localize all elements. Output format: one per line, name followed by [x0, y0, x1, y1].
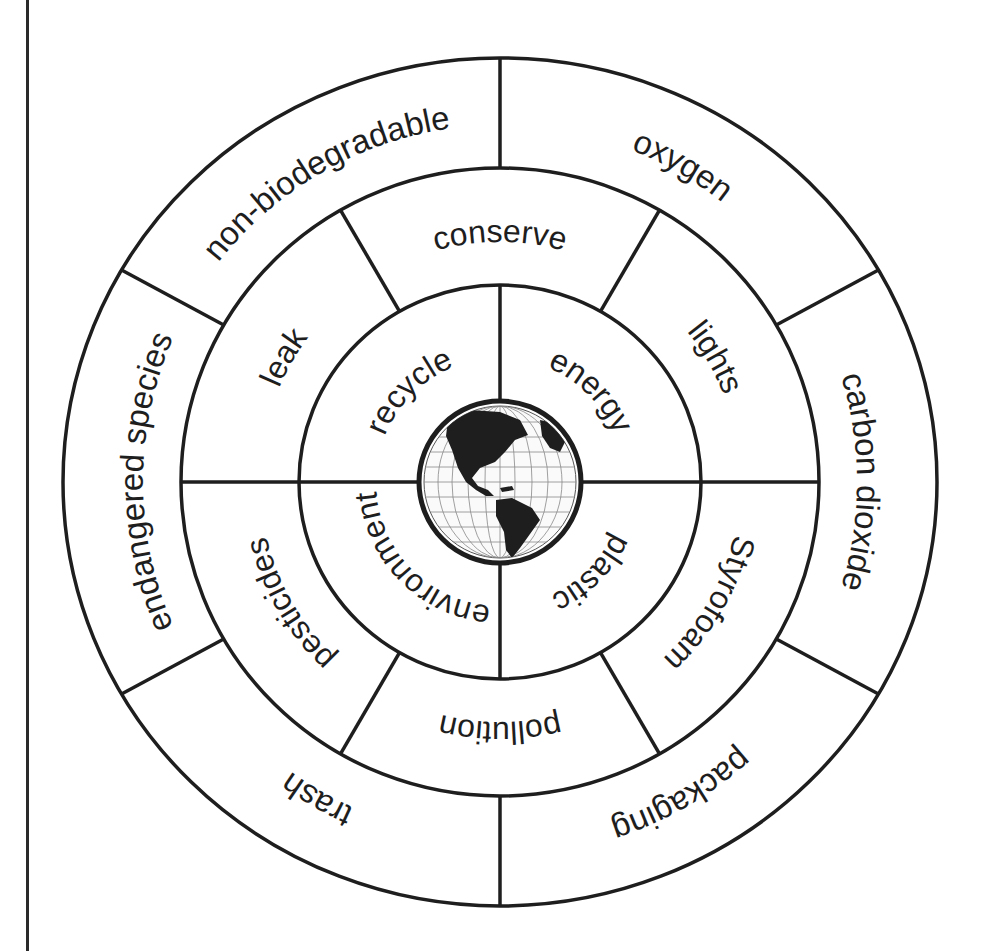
outer-ring-divider: [776, 639, 878, 694]
label-non-biodegradable: non-biodegradable: [195, 99, 452, 267]
label-conserve: conserve: [429, 213, 571, 258]
label-trash: trash: [274, 766, 357, 836]
outer-ring-divider: [122, 270, 224, 325]
middle-segment-label: leak: [253, 320, 315, 391]
middle-ring-divider: [341, 653, 400, 754]
middle-segment-label: pollution: [435, 708, 565, 751]
outer-segment-label: packaging: [608, 742, 759, 850]
outer-segment-label: endangered species: [113, 326, 180, 638]
label-leak: leak: [253, 320, 315, 391]
label-pollution: pollution: [435, 708, 565, 751]
middle-segment-label: lights: [681, 313, 750, 398]
middle-ring-divider: [601, 210, 660, 311]
label-styrofoam: Styrofoam: [658, 533, 763, 680]
label-endangered-species: endangered species: [113, 326, 180, 638]
label-pesticides: pesticides: [238, 534, 341, 678]
outer-ring-divider: [776, 270, 878, 325]
middle-ring-divider: [341, 210, 400, 311]
outer-segment-label: trash: [274, 766, 357, 836]
outer-segment-label: oxygen: [628, 122, 741, 208]
outer-segment-label: non-biodegradable: [195, 99, 452, 267]
label-oxygen: oxygen: [628, 122, 741, 208]
label-packaging: packaging: [608, 742, 759, 850]
inner-segment-label: plastic: [547, 529, 639, 621]
label-lights: lights: [681, 313, 750, 398]
middle-segment-label: conserve: [429, 213, 571, 258]
vocabulary-wheel-diagram: non-biodegradableoxygencarbon dioxidepac…: [0, 0, 988, 951]
outer-segment-label: carbon dioxide: [834, 368, 887, 596]
middle-ring-divider: [601, 653, 660, 754]
middle-segment-label: pesticides: [238, 534, 341, 678]
outer-ring-divider: [122, 639, 224, 694]
label-carbon-dioxide: carbon dioxide: [834, 368, 887, 596]
label-plastic: plastic: [547, 529, 639, 621]
globe-icon: [419, 401, 581, 563]
middle-segment-label: Styrofoam: [658, 533, 763, 680]
